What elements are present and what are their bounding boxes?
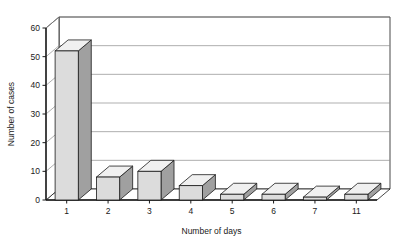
x-axis-ticks: 123456711 [64,200,361,216]
y-tick-label: 60 [31,23,41,33]
bar-front-face [345,194,368,200]
bar-front-face [221,194,244,200]
x-tick-label: 11 [352,206,361,216]
x-tick-label: 2 [106,206,111,216]
x-tick-label: 5 [230,206,235,216]
x-tick-label: 3 [147,206,152,216]
y-tick-label: 30 [31,109,41,119]
y-tick-label: 40 [31,80,41,90]
x-tick-label: 6 [271,206,276,216]
bar [138,160,174,200]
chart-container: 0102030405060123456711Number of daysNumb… [0,0,408,244]
bar-side-face [78,40,91,200]
y-tick-label: 50 [31,52,41,62]
x-axis-title: Number of days [182,226,242,236]
bar-front-face [262,194,285,200]
y-tick-label: 10 [31,166,41,176]
bar-front-face [138,171,161,200]
y-axis-title: Number of cases [6,82,16,146]
bar-front-face [179,186,202,200]
bar-front-face [303,197,326,200]
y-axis-ticks: 0102030405060 [31,23,46,205]
x-tick-label: 1 [64,206,69,216]
bar [55,40,91,200]
y-tick-label: 20 [31,138,41,148]
y-tick-label: 0 [35,195,40,205]
bar-front-face [96,177,119,200]
x-tick-label: 4 [188,206,193,216]
bar-front-face [55,51,78,200]
x-tick-label: 7 [313,206,318,216]
bar-chart: 0102030405060123456711Number of daysNumb… [0,0,408,244]
